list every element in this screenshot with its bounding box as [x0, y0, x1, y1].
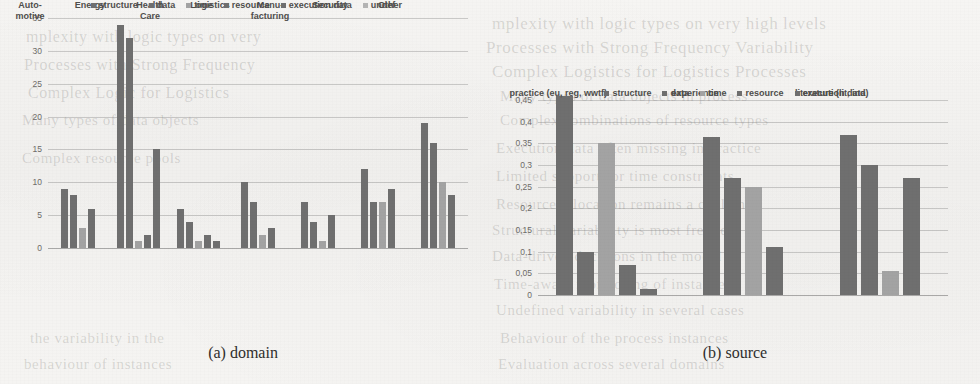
chart-bar [619, 265, 636, 295]
chart-x-tick-label-line: motive [0, 11, 60, 22]
chart-bar-group [48, 18, 108, 248]
chart-bar-groups [48, 18, 468, 248]
chart-bar-group [108, 18, 168, 248]
chart-y-tick-label: 0 [527, 290, 538, 300]
legend-swatch-icon [91, 3, 96, 8]
chart-legend-item[interactable]: data [662, 88, 689, 98]
chart-legend-label: data [670, 88, 689, 98]
chart-a-plot-area: 05101520253035 [48, 18, 468, 248]
chart-y-tick-label: 0,3 [520, 160, 538, 170]
chart-legend-label: structure [99, 0, 138, 10]
chart-bar [319, 241, 326, 248]
chart-y-tick-label: 0,15 [515, 225, 538, 235]
chart-legend-item[interactable]: time [186, 0, 213, 10]
chart-legend-item[interactable]: structure [604, 88, 651, 98]
chart-bar [153, 149, 160, 248]
chart-bar [640, 289, 657, 296]
chart-bar [79, 228, 86, 248]
chart-bar [177, 209, 184, 248]
chart-b-legend: structuredatatimeresourceexecution data [490, 88, 980, 98]
chart-legend-item[interactable]: execution data [795, 88, 866, 98]
chart-bar [135, 241, 142, 248]
bleed-line: mplexity with logic types on very high l… [492, 14, 826, 34]
chart-y-tick-label: 0,25 [515, 182, 538, 192]
chart-bar [703, 137, 720, 295]
chart-y-tick-label: 0,2 [520, 203, 538, 213]
chart-bar [840, 135, 857, 295]
legend-swatch-icon [281, 3, 286, 8]
chart-bar [882, 271, 899, 295]
chart-y-tick-label: 15 [33, 144, 48, 154]
chart-bar [310, 222, 317, 248]
chart-bar [328, 215, 335, 248]
legend-swatch-icon [662, 91, 667, 96]
chart-x-tick-label-line: facturing [240, 11, 300, 22]
chart-y-tick-label: 10 [33, 177, 48, 187]
chart-a-legend: structuredatatimeresourceexecution datau… [0, 0, 486, 10]
chart-bar-group [348, 18, 408, 248]
chart-bar [61, 189, 68, 248]
chart-y-tick-label: 0 [37, 243, 48, 253]
chart-bar-group [811, 100, 948, 295]
chart-bar [186, 222, 193, 248]
chart-bar [126, 38, 133, 248]
chart-bar-group [228, 18, 288, 248]
chart-legend-item[interactable]: time [700, 88, 727, 98]
chart-bar [861, 165, 878, 295]
chart-legend-label: undef [371, 0, 396, 10]
chart-legend-item[interactable]: undef [363, 0, 396, 10]
chart-axis-baseline [538, 295, 948, 296]
legend-swatch-icon [700, 91, 705, 96]
chart-bar [370, 202, 377, 248]
chart-bar [241, 182, 248, 248]
legend-swatch-icon [149, 3, 154, 8]
chart-legend-item[interactable]: data [149, 0, 176, 10]
chart-a-caption: (a) domain [0, 344, 486, 362]
chart-bar [88, 209, 95, 248]
chart-bar [204, 235, 211, 248]
chart-bar-group [675, 100, 812, 295]
chart-legend-item[interactable]: execution data [281, 0, 352, 10]
chart-bar [430, 143, 437, 248]
chart-bar [577, 252, 594, 295]
chart-bar [301, 202, 308, 248]
chart-y-tick-label: 30 [33, 46, 48, 56]
chart-legend-label: execution data [803, 88, 866, 98]
chart-y-tick-label: 25 [33, 79, 48, 89]
legend-swatch-icon [604, 91, 609, 96]
chart-bar [598, 143, 615, 295]
chart-bar-group [408, 18, 468, 248]
chart-legend-label: execution data [289, 0, 352, 10]
legend-swatch-icon [795, 91, 800, 96]
chart-legend-item[interactable]: resource [224, 0, 270, 10]
chart-legend-label: time [708, 88, 727, 98]
chart-legend-label: resource [745, 88, 783, 98]
chart-legend-item[interactable]: resource [737, 88, 783, 98]
legend-swatch-icon [363, 3, 368, 8]
chart-axis-baseline [48, 248, 468, 249]
chart-bar [259, 235, 266, 248]
legend-swatch-icon [737, 91, 742, 96]
chart-bar [361, 169, 368, 248]
legend-swatch-icon [186, 3, 191, 8]
chart-legend-label: resource [232, 0, 270, 10]
chart-bar [448, 195, 455, 248]
chart-y-tick-label: 0,05 [515, 268, 538, 278]
chart-bar [144, 235, 151, 248]
chart-b-source: 00,050,10,150,20,250,30,350,40,45 practi… [490, 88, 980, 384]
chart-y-tick-label: 0,4 [520, 117, 538, 127]
chart-y-tick-label: 5 [37, 210, 48, 220]
chart-y-tick-label: 0,1 [520, 247, 538, 257]
chart-bar [903, 178, 920, 295]
chart-y-tick-label: 0,35 [515, 138, 538, 148]
scanned-figure-page: mplexity with logic types on very high l… [0, 0, 980, 384]
chart-bar [388, 189, 395, 248]
chart-bar [379, 202, 386, 248]
chart-bar [724, 178, 741, 295]
chart-legend-label: data [157, 0, 176, 10]
bleed-line: Processes with Strong Frequency Variabil… [486, 38, 814, 58]
chart-bar-group [538, 100, 675, 295]
chart-legend-item[interactable]: structure [91, 0, 138, 10]
chart-a-domain: 05101520253035 Auto-motiveEnergyHealthCa… [0, 0, 486, 384]
chart-bar-groups [538, 100, 948, 295]
